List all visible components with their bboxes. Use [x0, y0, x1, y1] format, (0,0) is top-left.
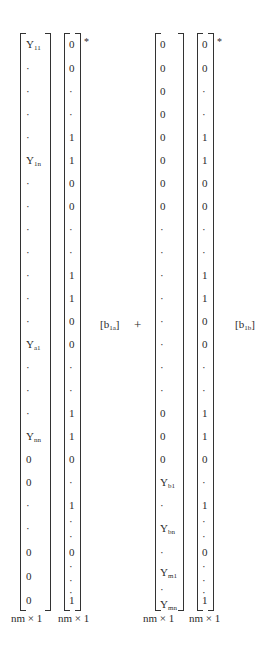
- matrix-c-entry: ·: [160, 315, 164, 327]
- matrix-c-entry: ·: [160, 384, 164, 396]
- matrix-a-entry: ·: [26, 361, 30, 373]
- matrix-a-entry: 0: [26, 594, 32, 606]
- vector-b-entry: 0: [69, 177, 75, 189]
- vector-b-entry: 0: [69, 200, 75, 212]
- matrix-a-entry: Ynn: [26, 430, 41, 446]
- vector-b-entry: ·: [69, 384, 73, 396]
- matrix-a-entry: 0: [26, 546, 32, 558]
- vector-d-entry: 1: [202, 269, 208, 281]
- vector-b-entry: ·: [69, 223, 73, 235]
- matrix-a-entry: ·: [26, 407, 30, 419]
- matrix-c-entry: 0: [160, 177, 166, 189]
- matrix-c-entry: 0: [160, 108, 166, 120]
- vector-d-entry: 1: [202, 594, 208, 606]
- vector-b-entry: ·: [69, 530, 73, 542]
- vector-d-entry: ·: [202, 223, 206, 235]
- vector-b-entry: 0: [69, 315, 75, 327]
- vector-b-entry: 1: [69, 499, 75, 511]
- vector-d-entry: 0: [202, 453, 208, 465]
- vector-d-entry: 1: [202, 407, 208, 419]
- vector-b-entry: 1: [69, 430, 75, 442]
- vector-b-entry: 1: [69, 407, 75, 419]
- vector-d-entry: ·: [202, 384, 206, 396]
- vector-b-entry: ·: [69, 108, 73, 120]
- vector-d-entry: 0: [202, 338, 208, 350]
- vector-b-entry: ·: [69, 476, 73, 488]
- matrix-c-entry: 0: [160, 62, 166, 74]
- vector-b-entry: 0: [69, 453, 75, 465]
- vector-d-entry: ·: [202, 476, 206, 488]
- matrix-c-entry: 0: [160, 85, 166, 97]
- matrix-a-entry: Ya1: [26, 338, 41, 354]
- vector-d-entry: 0: [202, 546, 208, 558]
- matrix-c-entry: ·: [160, 269, 164, 281]
- vector-b-entry: ·: [69, 515, 73, 527]
- vector-b-entry: 0: [69, 62, 75, 74]
- matrix-a-entry: ·: [26, 223, 30, 235]
- matrix-c-entry: 0: [160, 407, 166, 419]
- matrix-c-entry: ·: [160, 361, 164, 373]
- matrix-c-entry: Ybn: [160, 522, 175, 538]
- vector-d-entry: ·: [202, 361, 206, 373]
- vector-b-entry: ·: [69, 574, 73, 586]
- vector-b-entry: 1: [69, 594, 75, 606]
- matrix-a-entry: ·: [26, 522, 30, 534]
- vector-d-entry: 0: [202, 38, 208, 50]
- matrix-a-entry: ·: [26, 108, 30, 120]
- vector-d-entry: ·: [202, 85, 206, 97]
- vector-b-entry: 1: [69, 154, 75, 166]
- matrix-a-entry: Y1n: [26, 154, 41, 170]
- matrix-c-entry: 0: [160, 430, 166, 442]
- matrix-c-entry: Ymn: [160, 598, 177, 614]
- vector-d-entry: 1: [202, 292, 208, 304]
- matrix-a-entry: ·: [26, 269, 30, 281]
- matrix-a-bracket: [20, 33, 51, 611]
- vector-d-entry: 1: [202, 430, 208, 442]
- vector-d-entry: 0: [202, 177, 208, 189]
- coefficient-b1a: [b1a]: [100, 318, 119, 332]
- matrix-c-entry: ·: [160, 583, 164, 595]
- coefficient-b1b: [b1b]: [235, 318, 255, 332]
- matrix-c-entry: ·: [160, 292, 164, 304]
- matrix-c-entry: ·: [160, 223, 164, 235]
- matrix-a-entry: ·: [26, 62, 30, 74]
- plus-sign: +: [134, 317, 141, 333]
- matrix-a-entry: ·: [26, 246, 30, 258]
- matrix-c-entry: 0: [160, 131, 166, 143]
- vector-b-entry: 0: [69, 338, 75, 350]
- matrix-a-entry: 0: [26, 476, 32, 488]
- matrix-a-entry: ·: [26, 292, 30, 304]
- vector-b-entry: 1: [69, 292, 75, 304]
- vector-d-entry: ·: [202, 530, 206, 542]
- matrix-c-entry: Yb1: [160, 476, 175, 492]
- vector-b-entry: ·: [69, 85, 73, 97]
- vector-d-entry: ·: [202, 560, 206, 572]
- dim-label-d: nm × 1: [189, 612, 220, 624]
- matrix-c-entry: ·: [160, 499, 164, 511]
- matrix-c-entry: ·: [160, 546, 164, 558]
- matrix-a-entry: Y11: [26, 38, 41, 54]
- matrix-a-entry: ·: [26, 85, 30, 97]
- matrix-c-entry: ·: [160, 338, 164, 350]
- matrix-a-entry: ·: [26, 131, 30, 143]
- vector-d-entry: 1: [202, 154, 208, 166]
- vector-d-entry: ·: [202, 515, 206, 527]
- vector-d-entry: 1: [202, 131, 208, 143]
- vector-d-entry: 0: [202, 200, 208, 212]
- vector-d-entry: 1: [202, 499, 208, 511]
- matrix-a-entry: ·: [26, 177, 30, 189]
- matrix-c-entry: 0: [160, 38, 166, 50]
- star-a: *: [84, 36, 89, 47]
- vector-b-entry: ·: [69, 361, 73, 373]
- dim-label-b: nm × 1: [58, 612, 89, 624]
- vector-b-entry: 1: [69, 269, 75, 281]
- vector-b-entry: 1: [69, 131, 75, 143]
- matrix-a-entry: 0: [26, 570, 32, 582]
- vector-d-entry: 0: [202, 315, 208, 327]
- vector-b-entry: 0: [69, 38, 75, 50]
- matrix-c-entry: Ym1: [160, 566, 177, 582]
- matrix-c-entry: 0: [160, 154, 166, 166]
- matrix-a-entry: ·: [26, 315, 30, 327]
- matrix-a-entry: ·: [26, 200, 30, 212]
- vector-b-entry: ·: [69, 560, 73, 572]
